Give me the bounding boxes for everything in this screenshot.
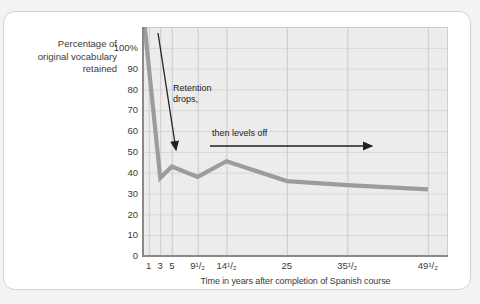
- y-tick-30: 30: [127, 188, 138, 199]
- x-axis-title: Time in years after completion of Spanis…: [143, 276, 448, 286]
- y-tick-0: 0: [133, 250, 138, 261]
- annotation-retention-drops: Retention drops,: [173, 83, 212, 105]
- x-tick-49.5: 49¹/₂: [418, 260, 438, 271]
- y-tick-50: 50: [127, 146, 138, 157]
- x-tick-labels: 1359¹/₂14¹/₂2535¹/₂49¹/₂: [146, 260, 438, 271]
- y-axis-title: Percentage of original vocabulary retain…: [14, 38, 117, 76]
- plot-area: [143, 27, 448, 256]
- y-tick-80: 80: [127, 84, 138, 95]
- y-tick-100: 100%: [114, 42, 139, 53]
- x-tick-14.5: 14¹/₂: [216, 260, 236, 271]
- y-tick-labels: 0102030405060708090100%: [114, 42, 139, 261]
- y-tick-20: 20: [127, 209, 138, 220]
- y-tick-90: 90: [127, 63, 138, 74]
- x-tick-1: 1: [146, 260, 151, 271]
- y-tick-60: 60: [127, 125, 138, 136]
- x-tick-9.5: 9¹/₂: [190, 260, 205, 271]
- x-tick-3: 3: [158, 260, 163, 271]
- annotation-then-levels-off: then levels off: [212, 128, 267, 139]
- y-tick-70: 70: [127, 104, 138, 115]
- x-tick-35.5: 35¹/₂: [337, 260, 357, 271]
- x-tick-5: 5: [169, 260, 174, 271]
- figure-page: { "chart_data": { "type": "line", "title…: [0, 0, 480, 304]
- x-tick-25: 25: [282, 260, 293, 271]
- y-tick-10: 10: [127, 229, 138, 240]
- y-tick-40: 40: [127, 167, 138, 178]
